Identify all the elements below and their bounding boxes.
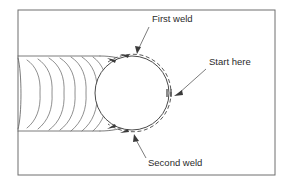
pipe-weld-diagram: First weld Start here Second weld — [0, 0, 288, 185]
first-weld-label: First weld — [152, 13, 193, 24]
start-here-label: Start here — [209, 56, 251, 67]
pipe-end-circle — [95, 56, 169, 130]
diagram-canvas: First weld Start here Second weld — [0, 0, 288, 185]
second-weld-label: Second weld — [148, 157, 202, 168]
